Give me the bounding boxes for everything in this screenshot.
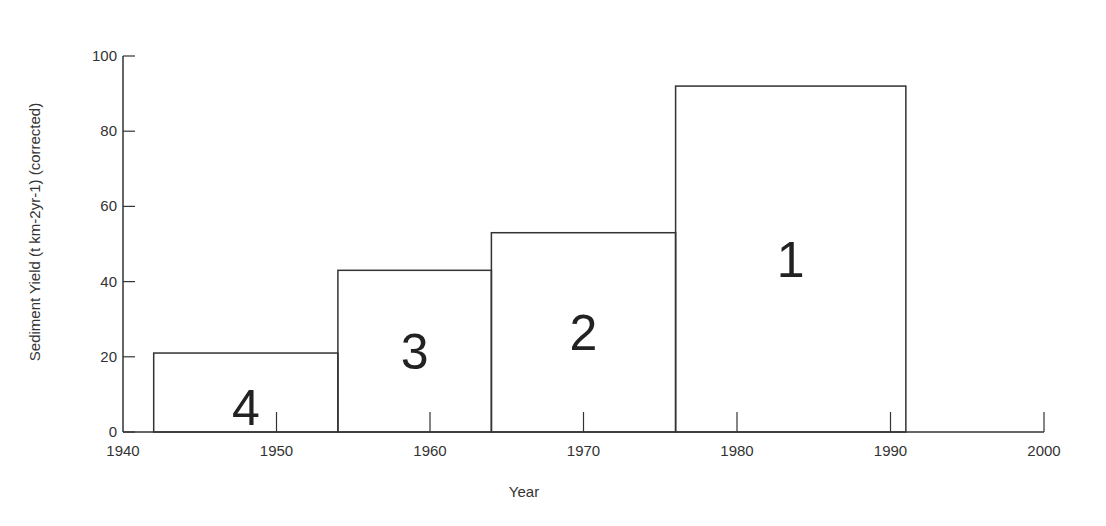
bar-number-label: 3 (401, 324, 429, 380)
sediment-yield-chart: 0204060801001940195019601970198019902000… (0, 0, 1106, 526)
y-tick-label: 100 (92, 47, 117, 64)
y-tick-label: 60 (100, 197, 117, 214)
x-tick-label: 1980 (720, 442, 753, 459)
x-tick-label: 2000 (1027, 442, 1060, 459)
bar-number-label: 1 (777, 232, 805, 288)
x-axis-title: Year (509, 483, 539, 500)
bars: 4321 (154, 86, 906, 435)
y-tick-label: 80 (100, 122, 117, 139)
y-axis-title: Sediment Yield (t km-2yr-1) (corrected) (26, 103, 43, 361)
x-tick-label: 1960 (413, 442, 446, 459)
bar-number-label: 2 (570, 305, 598, 361)
x-tick-label: 1940 (106, 442, 139, 459)
y-tick-label: 20 (100, 348, 117, 365)
x-tick-label: 1970 (567, 442, 600, 459)
y-tick-label: 0 (109, 423, 117, 440)
x-tick-label: 1950 (260, 442, 293, 459)
bar-number-label: 4 (232, 380, 260, 436)
y-tick-label: 40 (100, 273, 117, 290)
x-tick-label: 1990 (874, 442, 907, 459)
